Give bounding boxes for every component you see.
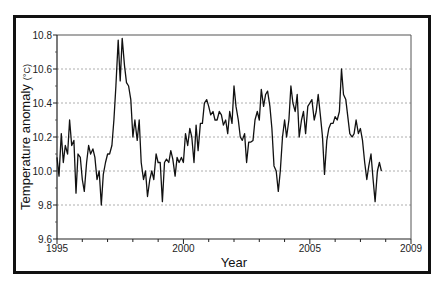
y-tick-label: 10.2 (33, 132, 53, 143)
line-chart: 9.69.810.010.210.410.610.8 1995200020052… (0, 0, 445, 289)
y-tick-label: 10.0 (33, 166, 53, 177)
x-tick-label: 1995 (46, 243, 69, 254)
x-axis-ticks: 1995200020052009 (46, 239, 423, 254)
x-axis-title: Year (221, 255, 248, 270)
x-tick-label: 2000 (172, 243, 195, 254)
y-tick-label: 9.8 (38, 200, 52, 211)
y-tick-label: 10.6 (33, 64, 53, 75)
temperature-anomaly-line (57, 38, 381, 205)
gridlines (57, 35, 411, 205)
x-tick-label: 2009 (400, 243, 423, 254)
x-tick-label: 2005 (299, 243, 322, 254)
y-tick-label: 10.4 (33, 98, 53, 109)
y-axis-ticks: 9.69.810.010.210.410.610.8 (33, 30, 57, 245)
y-tick-label: 10.8 (33, 30, 53, 41)
y-axis-title: Temperature anomaly(°C) (18, 64, 33, 210)
